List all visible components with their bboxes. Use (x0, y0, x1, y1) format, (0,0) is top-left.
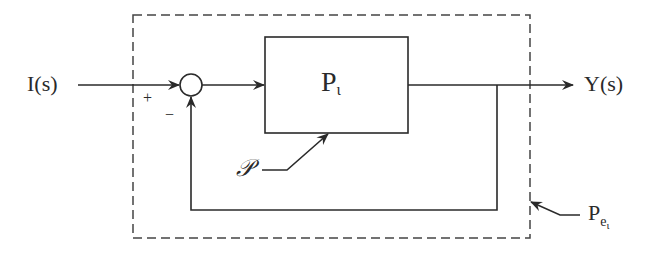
enclosure-symbol: P (588, 200, 600, 225)
minus-sign: − (165, 106, 174, 124)
plus-sign: + (143, 89, 152, 107)
plant-subscript: ι (337, 81, 341, 98)
enclosure-label: Peι (588, 200, 609, 231)
plant-block-label: Pι (321, 66, 341, 99)
enclosure-pointer-arrow (531, 202, 580, 215)
block-diagram (0, 0, 655, 256)
input-label: I(s) (27, 71, 58, 97)
summing-junction (180, 74, 202, 96)
uncertainty-arrow (262, 134, 328, 170)
enclosure-sub-subscript: ι (606, 219, 609, 231)
uncertainty-set-label: 𝒫 (236, 155, 253, 182)
output-label: Y(s) (584, 71, 623, 97)
plant-symbol: P (321, 66, 337, 97)
